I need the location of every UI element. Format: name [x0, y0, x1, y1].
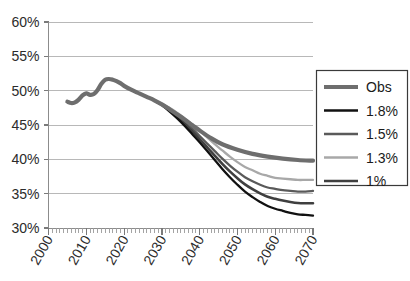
- legend-label-1-5pct[interactable]: 1.5%: [366, 126, 398, 142]
- x-tick-label: 2020: [102, 232, 132, 267]
- y-tick-label: 60%: [11, 14, 39, 30]
- line-chart: 30%35%40%45%50%55%60% 200020102020203020…: [0, 0, 410, 281]
- series-line-Obs: [67, 79, 313, 161]
- x-axis-tick-labels: 20002010202020302040205020602070: [27, 232, 321, 267]
- y-tick-label: 55%: [11, 48, 39, 64]
- x-tick-label: 2070: [291, 232, 321, 267]
- legend-label-1-3pct[interactable]: 1.3%: [366, 150, 398, 166]
- y-tick-label: 40%: [11, 151, 39, 167]
- x-tick-label: 2030: [140, 232, 170, 267]
- x-tick-label: 2050: [216, 232, 246, 267]
- legend-label-Obs[interactable]: Obs: [366, 79, 392, 95]
- legend: Obs1.8%1.5%1.3%1%: [317, 71, 408, 190]
- x-tick-label: 2060: [253, 232, 283, 267]
- x-tick-label: 2000: [27, 232, 57, 267]
- x-tick-label: 2040: [178, 232, 208, 267]
- y-axis-tick-labels: 30%35%40%45%50%55%60%: [11, 14, 39, 236]
- y-tick-label: 45%: [11, 117, 39, 133]
- x-tick-label: 2010: [64, 232, 94, 267]
- y-tick-label: 30%: [11, 220, 39, 236]
- legend-label-1-8pct[interactable]: 1.8%: [366, 103, 398, 119]
- y-tick-label: 35%: [11, 186, 39, 202]
- series-lines-group: [67, 79, 313, 216]
- chart-container: 30%35%40%45%50%55%60% 200020102020203020…: [0, 0, 410, 281]
- legend-label-1pct[interactable]: 1%: [366, 173, 386, 189]
- y-tick-label: 50%: [11, 83, 39, 99]
